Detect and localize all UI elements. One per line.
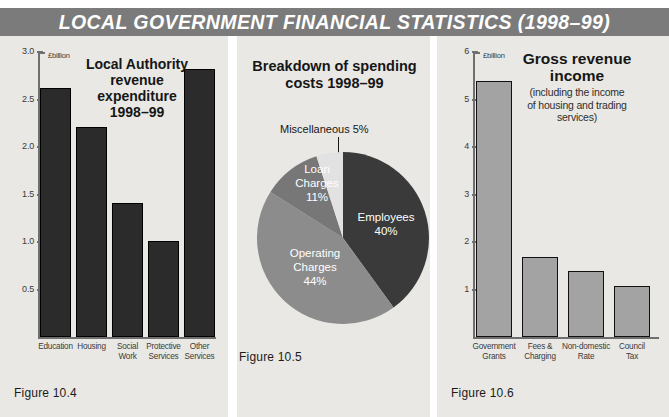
pie-label-operating-charges-line-3: 44% — [267, 274, 363, 288]
figure-caption-10-5: Figure 10.5 — [239, 350, 302, 364]
y-tick-label-0: 0.5 — [6, 285, 34, 294]
pie-label-operating-charges-line-2: Charges — [267, 260, 363, 274]
figure-caption-10-6: Figure 10.6 — [451, 386, 514, 400]
chart-title-10-6-line-2: income — [492, 67, 662, 84]
bar-1 — [40, 88, 71, 337]
bar-3 — [112, 203, 143, 337]
y-tick-5 — [472, 51, 478, 53]
panel-figure-10-4: 0.51.01.52.02.53.0£billionEducationHousi… — [0, 36, 228, 417]
bar-4 — [148, 241, 179, 337]
bar-2 — [76, 127, 107, 337]
chart-title-10-6: Gross revenueincome — [492, 50, 662, 84]
pie-chart-10-5: Employees40%OperatingCharges44%LoanCharg… — [257, 152, 429, 324]
page-title: LOCAL GOVERNMENT FINANCIAL STATISTICS (1… — [0, 8, 669, 36]
pie-label-loan-charges: LoanCharges11% — [283, 162, 351, 204]
y-tick-label-4: 5 — [441, 95, 469, 104]
chart-title-10-4: Local Authorityrevenueexpenditure1998–99 — [62, 56, 212, 120]
y-tick-label-1: 2 — [441, 237, 469, 246]
pie-label-employees-line-1: Employees — [343, 210, 429, 224]
bar-4 — [614, 286, 650, 337]
y-tick-label-2: 3 — [441, 190, 469, 199]
chart-subtitle-10-6-line-3: services) — [487, 111, 667, 124]
bar-category-label-4-line-2: Tax — [604, 352, 660, 362]
chart-subtitle-10-6-line-1: (including the income — [487, 86, 667, 99]
chart-title-10-5-line-1: Breakdown of spending — [232, 58, 437, 75]
bar-category-label-5: OtherServices — [179, 342, 221, 362]
bar-category-label-5-line-1: Other — [179, 342, 221, 352]
y-tick-label-3: 4 — [441, 142, 469, 151]
panel-figure-10-5: Breakdown of spendingcosts 1998–99 Misce… — [237, 36, 430, 417]
chart-title-10-4-line-4: 1998–99 — [62, 104, 212, 120]
y-tick-label-5: 6 — [441, 47, 469, 56]
pie-label-operating-charges-line-1: Operating — [267, 246, 363, 260]
chart-title-10-4-line-1: Local Authority — [62, 56, 212, 72]
y-tick-label-5: 3.0 — [6, 47, 34, 56]
y-tick-label-2: 1.5 — [6, 190, 34, 199]
y-tick-label-3: 2.0 — [6, 142, 34, 151]
pie-label-employees: Employees40% — [343, 210, 429, 238]
pie-callout-label: Miscellaneous 5% — [280, 123, 369, 135]
pie-label-loan-charges-line-1: Loan — [283, 162, 351, 176]
y-tick-5 — [37, 51, 43, 53]
bar-category-label-4: CouncilTax — [604, 342, 660, 362]
chart-title-10-4-line-2: revenue — [62, 72, 212, 88]
chart-subtitle-10-6: (including the incomeof housing and trad… — [487, 86, 667, 124]
chart-title-10-5-line-2: costs 1998–99 — [232, 75, 437, 92]
x-axis-line — [38, 337, 216, 339]
y-tick-label-4: 2.5 — [6, 95, 34, 104]
chart-title-10-4-line-3: expenditure — [62, 88, 212, 104]
bar-3 — [568, 271, 604, 338]
pie-label-operating-charges: OperatingCharges44% — [267, 246, 363, 288]
chart-title-10-6-line-1: Gross revenue — [492, 50, 662, 67]
chart-subtitle-10-6-line-2: of housing and trading — [487, 99, 667, 112]
bar-category-label-4-line-1: Council — [604, 342, 660, 352]
figure-caption-10-4: Figure 10.4 — [14, 386, 77, 400]
bar-2 — [522, 257, 558, 337]
bar-category-label-5-line-2: Services — [179, 352, 221, 362]
pie-label-loan-charges-line-3: 11% — [283, 190, 351, 204]
pie-label-employees-line-2: 40% — [343, 224, 429, 238]
figure-page: LOCAL GOVERNMENT FINANCIAL STATISTICS (1… — [0, 0, 669, 417]
x-axis-line — [473, 337, 659, 339]
pie-label-loan-charges-line-2: Charges — [283, 176, 351, 190]
y-tick-label-1: 1.0 — [6, 237, 34, 246]
chart-title-10-5: Breakdown of spendingcosts 1998–99 — [232, 58, 437, 92]
y-tick-label-0: 1 — [441, 285, 469, 294]
panel-figure-10-6: 123456£billionGovernmentGrantsFees &Char… — [437, 36, 669, 417]
